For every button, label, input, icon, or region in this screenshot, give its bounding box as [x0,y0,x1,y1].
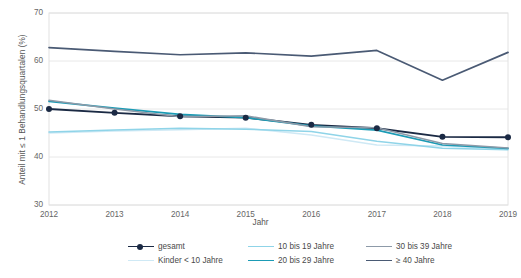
series-line [49,109,508,137]
data-point-marker [505,134,511,140]
data-point-marker [308,122,314,128]
legend-label: Kinder < 10 Jahre [158,256,223,265]
data-point-marker [46,106,52,112]
data-point-marker [112,110,118,116]
series-line [49,48,508,81]
y-axis-tick-label: 40 [21,152,43,161]
legend-label: 30 bis 39 Jahre [396,242,452,251]
data-point-marker [243,115,249,121]
legend-item[interactable]: gesamt [128,242,248,251]
x-axis-tick-label: 2012 [29,210,69,219]
data-point-marker [439,134,445,140]
y-axis-tick-label: 30 [21,200,43,209]
legend-line-swatch [248,246,274,247]
data-point-marker [374,125,380,131]
x-axis-label: Jahr [0,218,521,227]
x-axis-tick-label: 2013 [95,210,135,219]
legend-label: gesamt [158,242,185,251]
legend-line-swatch [248,260,274,261]
legend-item[interactable]: 30 bis 39 Jahre [366,242,476,251]
legend-item[interactable]: 10 bis 19 Jahre [248,242,366,251]
x-axis-tick-label: 2019 [488,210,521,219]
legend-line-swatch [366,246,392,247]
x-axis-tick-label: 2018 [422,210,462,219]
legend-label: 20 bis 29 Jahre [278,256,334,265]
legend-line-swatch [128,260,154,261]
line-chart-plot [0,0,521,278]
legend-label: 10 bis 19 Jahre [278,242,334,251]
legend-line-swatch [366,260,392,261]
legend-label: ≥ 40 Jahre [396,256,435,265]
series-line [49,128,508,149]
x-axis-tick-label: 2014 [160,210,200,219]
x-axis-tick-label: 2016 [291,210,331,219]
legend-item[interactable]: Kinder < 10 Jahre [128,256,248,265]
chart-figure: Anteil mit ≤ 1 Behandlungsquartalen (%) … [0,0,521,278]
series-line [49,101,508,148]
legend-marker-dot [137,244,143,250]
y-axis-tick-label: 60 [21,56,43,65]
series-line [49,100,508,148]
y-axis-tick-label: 70 [21,8,43,17]
y-axis-tick-label: 50 [21,104,43,113]
legend-item[interactable]: ≥ 40 Jahre [366,256,476,265]
data-point-marker [177,113,183,119]
legend-line-swatch [128,246,154,247]
legend-item[interactable]: 20 bis 29 Jahre [248,256,366,265]
chart-legend: gesamt10 bis 19 Jahre30 bis 39 JahreKind… [128,239,428,267]
x-axis-tick-label: 2017 [357,210,397,219]
x-axis-tick-label: 2015 [226,210,266,219]
data-series-layer [46,48,511,150]
